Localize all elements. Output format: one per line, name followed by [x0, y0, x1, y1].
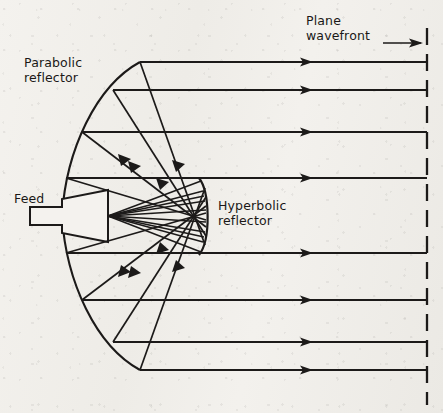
feed-label: Feed	[14, 192, 44, 207]
cassegrain-antenna-figure: Plane wavefront Parabolic reflector Feed…	[0, 0, 443, 413]
plane-wavefront-leader	[383, 39, 423, 48]
hyperbolic-reflector	[199, 178, 208, 255]
plane-wavefront-label: Plane wavefront	[306, 14, 370, 43]
hyperbolic-reflector-label: Hyperbolic reflector	[218, 199, 286, 228]
output-ray-arrowheads	[300, 58, 313, 375]
parabolic-reflector-label: Parabolic reflector	[24, 56, 82, 85]
